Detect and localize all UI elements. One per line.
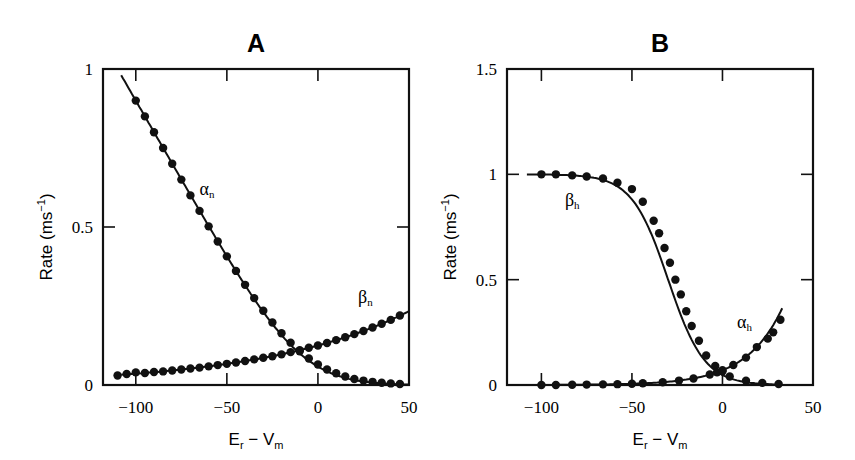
data-point	[250, 355, 258, 363]
data-point	[195, 207, 203, 215]
data-point	[677, 290, 685, 298]
data-point	[150, 128, 158, 136]
x-tick-label: −50	[619, 398, 646, 417]
data-point	[241, 357, 249, 365]
data-point	[314, 341, 322, 349]
data-point	[387, 379, 395, 387]
data-point	[729, 361, 737, 369]
data-point	[568, 381, 576, 389]
x-tick-label: 0	[314, 398, 323, 417]
data-point	[769, 328, 777, 336]
data-point	[649, 216, 657, 224]
data-point	[132, 96, 140, 104]
y-tick-label: 0.5	[476, 271, 497, 290]
data-point	[168, 160, 176, 168]
data-point	[639, 379, 647, 387]
data-point	[277, 350, 285, 358]
data-point	[268, 352, 276, 360]
data-point	[186, 364, 194, 372]
data-point	[122, 370, 130, 378]
data-point	[350, 375, 358, 383]
data-point	[296, 346, 304, 354]
data-point	[286, 348, 294, 356]
data-point	[214, 361, 222, 369]
data-point	[568, 171, 576, 179]
data-point	[599, 174, 607, 182]
data-point	[332, 369, 340, 377]
data-point	[186, 191, 194, 199]
data-point	[204, 222, 212, 230]
data-point	[177, 365, 185, 373]
data-point	[758, 379, 766, 387]
data-point	[675, 376, 683, 384]
panel-title: A	[247, 29, 265, 57]
y-tick-label: 1	[489, 165, 498, 184]
x-tick-label: 0	[718, 398, 727, 417]
data-point	[223, 360, 231, 368]
data-point	[671, 275, 679, 283]
data-point	[341, 333, 349, 341]
panel-a: A−100−5005000.51Er − VmRate (ms−1)αnβn	[35, 29, 418, 451]
data-point	[359, 376, 367, 384]
y-tick-label: 0.5	[72, 218, 93, 237]
data-point	[628, 185, 636, 193]
data-point	[753, 343, 761, 351]
data-point	[323, 339, 331, 347]
x-tick-label: −50	[214, 398, 241, 417]
data-point	[341, 372, 349, 380]
data-point	[141, 112, 149, 120]
x-tick-label: 50	[805, 398, 822, 417]
x-tick-label: −100	[524, 398, 559, 417]
data-point	[168, 366, 176, 374]
x-tick-label: 50	[401, 398, 418, 417]
data-point	[323, 365, 331, 373]
data-point	[582, 380, 590, 388]
data-point	[387, 316, 395, 324]
data-point	[268, 318, 276, 326]
series-label: αn	[200, 179, 215, 200]
data-point	[141, 369, 149, 377]
data-point	[305, 354, 313, 362]
data-point	[718, 366, 726, 374]
data-point	[582, 172, 590, 180]
data-point	[599, 380, 607, 388]
series-alpha-n: αn	[121, 75, 409, 388]
y-tick-label: 1.5	[476, 60, 497, 79]
data-point	[682, 307, 690, 315]
data-point	[742, 353, 750, 361]
data-point	[628, 380, 636, 388]
series-label: βh	[565, 190, 580, 211]
data-point	[702, 351, 710, 359]
y-axis-label: Rate (ms−1)	[35, 193, 56, 280]
data-point	[259, 354, 267, 362]
data-point	[537, 170, 545, 178]
data-point	[277, 329, 285, 337]
data-point	[159, 367, 167, 375]
x-axis-label: Er − Vm	[229, 430, 284, 451]
data-point	[377, 319, 385, 327]
chart-canvas: A−100−5005000.51Er − VmRate (ms−1)αnβnB−…	[0, 0, 855, 460]
data-point	[552, 381, 560, 389]
data-point	[613, 179, 621, 187]
data-point	[687, 322, 695, 330]
panel-b: B−100−5005000.511.5Er − VmRate (ms−1)βhα…	[439, 29, 822, 451]
data-point	[232, 358, 240, 366]
data-point	[286, 338, 294, 346]
y-tick-label: 0	[85, 376, 94, 395]
data-point	[377, 379, 385, 387]
fit-curve	[121, 311, 409, 375]
data-point	[332, 336, 340, 344]
data-point	[214, 237, 222, 245]
series-beta-n: βn	[113, 287, 409, 380]
data-point	[706, 370, 714, 378]
data-point	[666, 259, 674, 267]
data-point	[689, 374, 697, 382]
data-point	[695, 337, 703, 345]
data-point	[359, 327, 367, 335]
x-tick-label: −100	[118, 398, 153, 417]
y-axis-label: Rate (ms−1)	[439, 193, 460, 280]
panel-title: B	[651, 29, 669, 57]
data-point	[396, 380, 404, 388]
series-label: αh	[737, 312, 752, 333]
data-point	[613, 380, 621, 388]
